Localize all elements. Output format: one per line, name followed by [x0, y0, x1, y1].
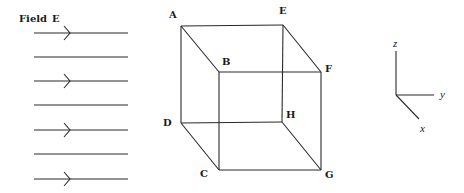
cube-edge-ae	[181, 25, 283, 26]
vertex-label-c: C	[200, 168, 208, 179]
cube-edge-ba	[181, 26, 219, 72]
axis-label-x: x	[419, 122, 425, 134]
vertex-label-a: A	[168, 9, 177, 20]
diagram-canvas: FieldE A E B F D H C G z y x	[0, 0, 464, 193]
vertex-label-h: H	[286, 109, 295, 120]
cube-edge-hg	[282, 122, 321, 170]
axis-label-z: z	[392, 37, 398, 49]
vertex-label-b: B	[222, 56, 230, 67]
cube-edge-eh	[282, 25, 283, 122]
vertex-label-g: G	[325, 169, 334, 180]
x-axis	[396, 95, 419, 119]
field-label: FieldE	[19, 13, 60, 24]
electric-field-lines	[34, 26, 128, 186]
cube-edge-dh	[181, 122, 282, 123]
cube	[181, 25, 321, 170]
axis-label-y: y	[439, 88, 445, 100]
cube-edge-ef	[283, 25, 321, 72]
vertex-label-e: E	[279, 5, 287, 16]
vertex-label-d: D	[163, 117, 172, 128]
cube-edge-cd	[181, 123, 219, 170]
vertex-label-f: F	[325, 63, 332, 74]
coordinate-axes	[396, 51, 434, 119]
